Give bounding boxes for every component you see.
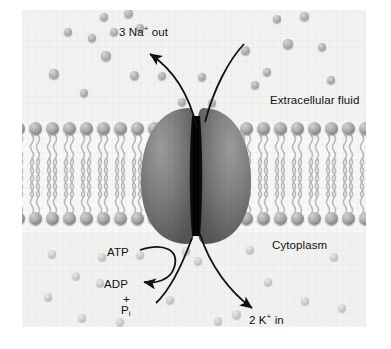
potassium-in-arrow	[200, 234, 252, 308]
sodium-out-arrow-tail	[205, 44, 244, 122]
label-inorganic-phosphate: Pi	[121, 304, 131, 317]
diagram-figure: 3 Na+ out Extracellular fluid Cytoplasm …	[22, 10, 366, 327]
label-extracellular-fluid: Extracellular fluid	[270, 94, 359, 107]
atp-hydrolysis-arrow	[140, 247, 175, 283]
label-atp: ATP	[107, 246, 129, 259]
transport-arrows	[22, 10, 366, 327]
label-potassium-in: 2 K+ in	[249, 312, 284, 327]
label-cytoplasm: Cytoplasm	[272, 239, 327, 252]
sodium-out-arrow	[150, 54, 197, 128]
label-sodium-out: 3 Na+ out	[119, 24, 168, 39]
label-adp: ADP	[104, 278, 128, 291]
